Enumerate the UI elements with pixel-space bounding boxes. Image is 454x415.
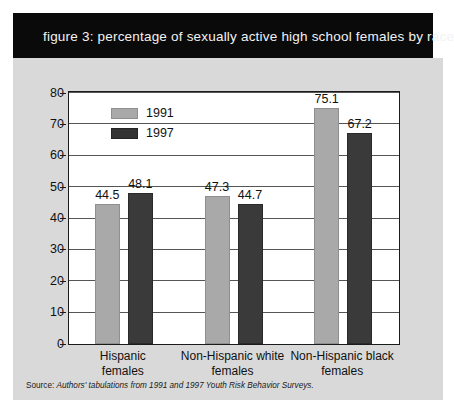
bar-value-label: 48.1	[117, 177, 163, 191]
bar-group: 75.167.2	[314, 92, 372, 344]
y-axis: 01020304050607080	[22, 91, 64, 345]
bar[interactable]	[205, 196, 230, 344]
legend-item-1997[interactable]: 1997	[111, 125, 174, 142]
bar-value-label: 75.1	[304, 92, 350, 106]
chart-legend: 19911997	[111, 105, 174, 145]
figure-title-banner: figure 3: percentage of sexually active …	[13, 13, 433, 58]
bar[interactable]	[128, 193, 153, 344]
source-prefix: Source:	[26, 381, 54, 390]
bar[interactable]	[95, 204, 120, 344]
y-axis-tick-label-60: 60	[30, 148, 64, 162]
plot-inner: 44.548.147.344.775.167.2 19911997	[69, 92, 399, 344]
y-axis-tick-mark-60	[60, 155, 66, 156]
legend-swatch-1991	[111, 108, 138, 119]
y-axis-tick-label-20: 20	[30, 274, 64, 288]
y-axis-tick-label-50: 50	[30, 180, 64, 194]
legend-item-1991[interactable]: 1991	[111, 105, 174, 122]
source-note: Source: Authors' tabulations from 1991 a…	[26, 381, 314, 390]
bar[interactable]	[347, 133, 372, 344]
y-axis-tick-label-0: 0	[30, 337, 64, 351]
x-axis-label-line: Non-Hispanic white	[173, 349, 293, 364]
bar-value-label: 67.2	[337, 117, 383, 131]
y-axis-tick-mark-30	[60, 249, 66, 250]
y-axis-tick-label-10: 10	[30, 305, 64, 319]
x-axis-label-0: Hispanicfemales	[63, 349, 183, 378]
y-axis-tick-mark-80	[60, 93, 66, 94]
legend-swatch-1997	[111, 128, 138, 139]
y-axis-tick-mark-70	[60, 124, 66, 125]
y-axis-tick-mark-20	[60, 281, 66, 282]
y-axis-tick-mark-40	[60, 218, 66, 219]
y-axis-tick-mark-0	[60, 344, 66, 345]
plot-area: 44.548.147.344.775.167.2 19911997	[68, 91, 400, 345]
x-axis-label-line: Hispanic	[63, 349, 183, 364]
y-axis-tick-label-40: 40	[30, 211, 64, 225]
x-axis-label-1: Non-Hispanic whitefemales	[173, 349, 293, 378]
legend-label-1997: 1997	[146, 127, 174, 140]
y-axis-tick-label-80: 80	[30, 86, 64, 100]
bar-value-label: 44.7	[227, 188, 273, 202]
bar[interactable]	[238, 204, 263, 344]
figure-title: figure 3: percentage of sexually active …	[43, 28, 454, 43]
legend-label-1991: 1991	[146, 107, 174, 120]
y-axis-tick-mark-50	[60, 187, 66, 188]
x-axis-label-2: Non-Hispanic blackfemales	[282, 349, 402, 378]
bar[interactable]	[314, 108, 339, 344]
y-axis-tick-label-70: 70	[30, 117, 64, 131]
x-axis-label-line: females	[63, 364, 183, 379]
y-axis-tick-mark-10	[60, 312, 66, 313]
y-axis-tick-label-30: 30	[30, 242, 64, 256]
x-axis-label-line: Non-Hispanic black	[282, 349, 402, 364]
x-axis-label-line: females	[173, 364, 293, 379]
bar-group: 47.344.7	[205, 92, 263, 344]
x-axis-category-labels: HispanicfemalesNon-Hispanic whitefemales…	[68, 349, 400, 385]
source-body: Authors' tabulations from 1991 and 1997 …	[57, 381, 314, 390]
x-axis-label-line: females	[282, 364, 402, 379]
